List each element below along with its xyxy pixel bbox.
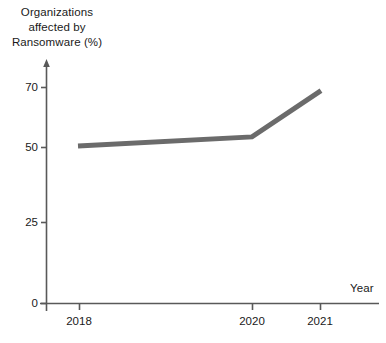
x-tick-label-2018: 2018: [57, 315, 101, 328]
data-series-line: [78, 91, 321, 147]
y-axis-arrow-icon: [43, 59, 50, 67]
y-axis-title-line-2: affected by: [2, 20, 112, 35]
chart-canvas: [0, 0, 386, 343]
y-axis-title: Organizations affected by Ransomware (%): [2, 5, 112, 50]
x-tick-label-2021: 2021: [298, 315, 342, 328]
x-axis-ticks: [80, 304, 321, 311]
y-tick-label-0: 0: [12, 297, 38, 310]
y-tick-label-70: 70: [12, 81, 38, 94]
y-tick-label-25: 25: [12, 216, 38, 229]
y-axis-ticks: [41, 88, 47, 304]
line-chart: Organizations affected by Ransomware (%)…: [0, 0, 386, 343]
x-tick-label-2020: 2020: [230, 315, 274, 328]
y-axis-title-line-3: Ransomware (%): [2, 35, 112, 50]
x-axis-title: Year: [350, 281, 374, 296]
y-axis: [43, 59, 50, 311]
y-tick-label-50: 50: [12, 141, 38, 154]
y-axis-title-line-1: Organizations: [2, 5, 112, 20]
